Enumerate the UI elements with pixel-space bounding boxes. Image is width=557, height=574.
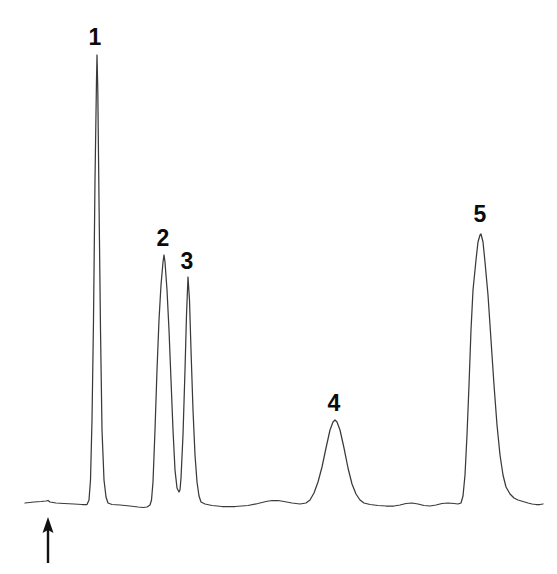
chromatogram-figure: 1 2 3 4 5: [0, 0, 557, 574]
peak-label-1: 1: [83, 26, 107, 49]
peak-label-2: 2: [151, 227, 175, 250]
peak-label-5: 5: [468, 203, 492, 226]
peak-label-4: 4: [322, 392, 346, 415]
peak-label-3: 3: [175, 250, 199, 273]
chromatogram-plot: [0, 0, 557, 574]
chromatogram-trace: [25, 55, 543, 508]
injection-arrow: [43, 517, 54, 563]
